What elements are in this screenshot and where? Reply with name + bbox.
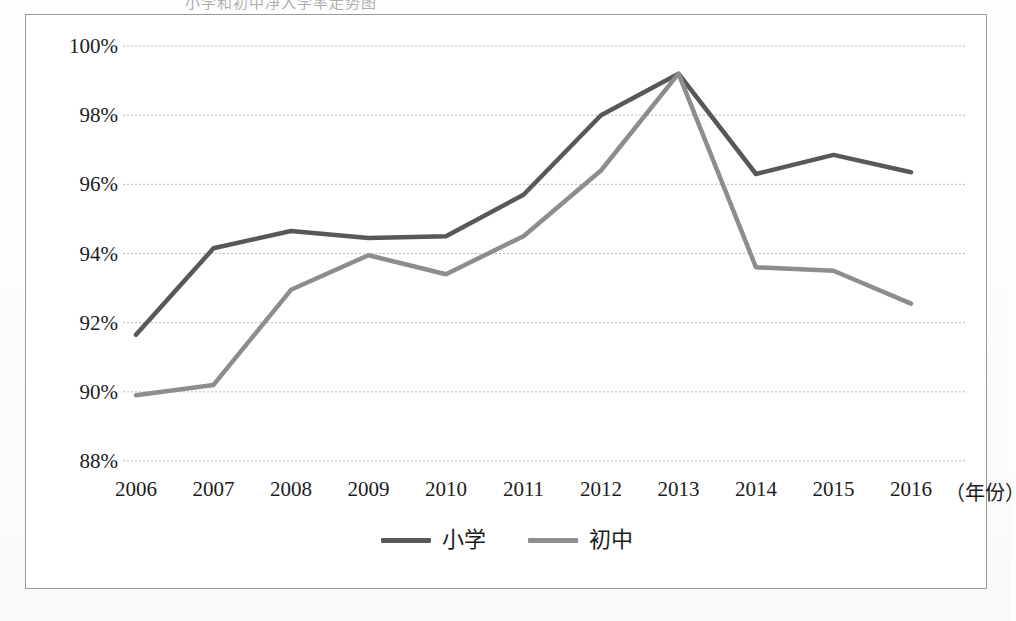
x-axis-tick-label: 2010 bbox=[425, 477, 467, 502]
x-axis-tick-label: 2007 bbox=[193, 477, 235, 502]
x-axis-tick-label: 2011 bbox=[503, 477, 544, 502]
x-axis-tick-label: 2009 bbox=[348, 477, 390, 502]
x-axis-tick-label: 2006 bbox=[115, 477, 157, 502]
legend-line-swatch bbox=[381, 538, 431, 543]
y-axis-tick-label: 94% bbox=[26, 241, 118, 266]
x-axis-tick-label: 2008 bbox=[270, 477, 312, 502]
y-axis-tick-label: 100% bbox=[26, 34, 118, 59]
document-title-strip: 小学和初中净入学率走势图 bbox=[0, 0, 1010, 12]
series-line bbox=[136, 74, 911, 396]
gridlines-group bbox=[123, 46, 966, 461]
x-axis-tick-label: 2016 bbox=[890, 477, 932, 502]
y-axis-tick-label: 96% bbox=[26, 172, 118, 197]
legend-item[interactable]: 初中 bbox=[528, 529, 633, 551]
series-line bbox=[136, 74, 911, 335]
y-axis-tick-label: 92% bbox=[26, 310, 118, 335]
legend-label: 小学 bbox=[442, 529, 486, 551]
x-axis-tick-label: 2015 bbox=[813, 477, 855, 502]
line-chart-svg bbox=[26, 15, 988, 590]
y-axis-tick-label: 90% bbox=[26, 379, 118, 404]
chart-frame: 88%90%92%94%96%98%100% 20062007200820092… bbox=[25, 14, 987, 589]
legend-item[interactable]: 小学 bbox=[381, 529, 486, 551]
document-title: 小学和初中净入学率走势图 bbox=[185, 0, 377, 12]
x-axis-tick-label: 2012 bbox=[580, 477, 622, 502]
y-axis-tick-label: 88% bbox=[26, 449, 118, 474]
y-axis-tick-label: 98% bbox=[26, 103, 118, 128]
chart-legend: 小学初中 bbox=[26, 529, 988, 551]
legend-label: 初中 bbox=[589, 529, 633, 551]
chart-plot-area: 88%90%92%94%96%98%100% 20062007200820092… bbox=[26, 15, 988, 590]
x-axis-tick-label: 2013 bbox=[658, 477, 700, 502]
x-axis-tick-label: 2014 bbox=[735, 477, 777, 502]
legend-line-swatch bbox=[528, 538, 578, 543]
series-lines-group bbox=[136, 74, 911, 396]
x-axis-unit-label: （年份） bbox=[945, 477, 1016, 506]
